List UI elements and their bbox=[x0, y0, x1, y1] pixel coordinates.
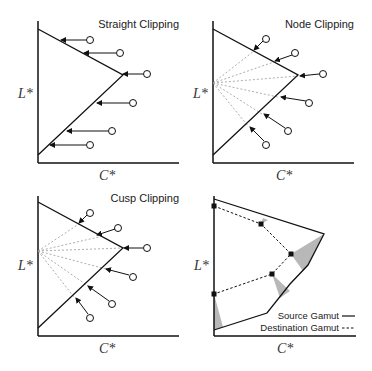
panel-straight-clipping: Straight Clipping L* C* bbox=[17, 18, 179, 183]
clipping-arrows bbox=[76, 210, 151, 322]
gamut-clipping-figure: Straight Clipping L* C* Node Clipping L*… bbox=[0, 0, 372, 371]
panel-cusp-clipping: Cusp Clipping L* C* bbox=[17, 192, 179, 356]
panel-title: Node Clipping bbox=[285, 18, 354, 30]
x-axis-label: C* bbox=[277, 341, 293, 356]
destination-nodes bbox=[212, 204, 294, 297]
y-axis-label: L* bbox=[193, 258, 209, 273]
y-axis-label: L* bbox=[192, 86, 208, 101]
legend-source-label: Source Gamut bbox=[278, 310, 340, 321]
y-axis-label: L* bbox=[17, 258, 33, 273]
panel-gamut-comparison: Source Gamut Destination Gamut L* C* bbox=[193, 196, 356, 356]
clipping-arrows bbox=[50, 37, 151, 149]
x-axis-label: C* bbox=[276, 168, 292, 183]
legend-destination-label: Destination Gamut bbox=[260, 322, 339, 333]
x-axis-label: C* bbox=[99, 341, 115, 356]
panel-title: Cusp Clipping bbox=[111, 192, 179, 204]
y-axis-label: L* bbox=[17, 86, 33, 101]
gamut-boundary bbox=[38, 29, 123, 155]
x-axis-label: C* bbox=[99, 168, 115, 183]
clipping-arrows bbox=[250, 36, 327, 149]
panel-node-clipping: Node Clipping L* C* bbox=[192, 18, 354, 183]
panel-title: Straight Clipping bbox=[98, 18, 179, 30]
